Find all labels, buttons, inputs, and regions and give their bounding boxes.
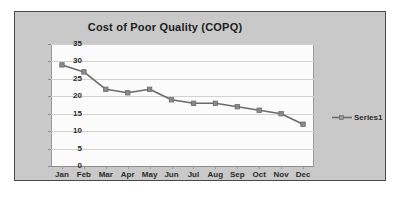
gridline: [51, 166, 314, 167]
data-point-marker: [257, 108, 261, 112]
data-point-marker: [169, 98, 173, 102]
x-axis-label: Dec: [289, 170, 317, 179]
data-point-marker: [301, 122, 305, 126]
x-axis-tick: [281, 166, 282, 169]
x-axis-tick: [150, 166, 151, 169]
x-axis-tick: [128, 166, 129, 169]
x-axis-tick: [106, 166, 107, 169]
data-point-marker: [60, 63, 64, 67]
series-plot: [51, 44, 314, 166]
x-axis-tick: [303, 166, 304, 169]
chart-title: Cost of Poor Quality (COPQ): [15, 21, 315, 33]
y-axis-tick: [48, 166, 51, 167]
data-point-marker: [235, 105, 239, 109]
data-point-marker: [104, 87, 108, 91]
chart-frame: Cost of Poor Quality (COPQ) 051015202530…: [14, 11, 386, 181]
data-point-marker: [191, 101, 195, 105]
legend-item-series1: Series1: [354, 113, 382, 122]
data-point-marker: [213, 101, 217, 105]
data-point-marker: [82, 70, 86, 74]
chart-legend: Series1: [332, 113, 382, 122]
legend-swatch-icon: [332, 113, 352, 122]
x-axis-tick: [62, 166, 63, 169]
x-axis-tick: [172, 166, 173, 169]
chart-screenshot: Cost of Poor Quality (COPQ) 051015202530…: [0, 0, 405, 197]
data-point-marker: [279, 112, 283, 116]
data-point-marker: [126, 91, 130, 95]
x-axis-tick: [237, 166, 238, 169]
x-axis-tick: [215, 166, 216, 169]
x-axis-tick: [84, 166, 85, 169]
data-point-marker: [147, 87, 151, 91]
x-axis-tick: [259, 166, 260, 169]
series-line: [62, 65, 303, 124]
x-axis-tick: [193, 166, 194, 169]
